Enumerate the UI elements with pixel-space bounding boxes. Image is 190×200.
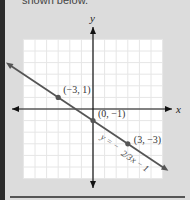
y-axis-label: y: [89, 12, 95, 24]
data-point-label: (0, −1): [98, 108, 125, 120]
series-arrow-start: [6, 63, 13, 69]
data-point: [90, 118, 95, 123]
x-axis-arrow-left: [12, 106, 19, 112]
data-point: [125, 141, 130, 146]
x-axis-arrow-right: [165, 106, 172, 112]
y-axis-arrow-down: [90, 181, 96, 188]
bottom-rule: [10, 196, 185, 198]
data-point: [56, 95, 61, 100]
data-point-label: (3, −3): [134, 134, 161, 146]
line-chart: x y (−3, 1)(0, −1)(3, −3) y = − 2/3 x − …: [0, 0, 190, 200]
data-point-label: (−3, 1): [63, 84, 90, 96]
x-axis-label: x: [175, 103, 181, 115]
y-axis-arrow-up: [90, 27, 96, 34]
